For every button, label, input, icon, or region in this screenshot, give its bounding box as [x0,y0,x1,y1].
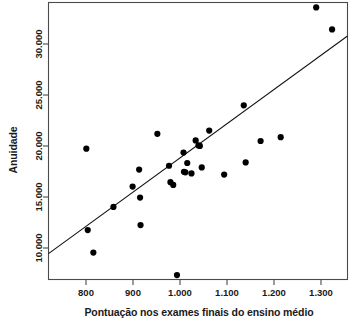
data-point [174,272,180,278]
data-point [221,171,227,177]
x-tick-label-1200: 1.200 [262,287,286,298]
data-point [184,160,190,166]
data-point [313,4,319,10]
data-point [329,26,335,32]
data-point [137,195,143,201]
data-point [170,182,176,188]
data-point [90,249,96,255]
data-point [241,102,247,108]
x-tick-label-900: 900 [125,287,141,298]
y-tick-label-25000: 25.000 [33,80,44,109]
data-point [166,163,172,169]
data-point [258,138,264,144]
y-axis-title: Anuidade [7,126,19,173]
chart-canvas: 30.000 25.000 20.000 15.000 10.000 Anuid… [0,0,354,323]
data-point [180,149,186,155]
data-point [206,127,212,133]
data-point [136,166,142,172]
x-axis-title: Pontuação nos exames finais do ensino mé… [84,306,313,318]
data-point [199,164,205,170]
data-point [197,143,203,149]
x-tick-label-1300: 1.300 [309,287,333,298]
y-tick-label-10000: 10.000 [33,233,44,262]
data-point [182,169,188,175]
x-tick-label-1100: 1.100 [215,287,239,298]
data-point [188,170,194,176]
x-tick-label-1000: 1.000 [168,287,192,298]
data-point [110,204,116,210]
y-tick-label-15000: 15.000 [33,182,44,211]
scatter-chart-figure: 30.000 25.000 20.000 15.000 10.000 Anuid… [0,0,354,323]
data-point [154,131,160,137]
x-tick-label-800: 800 [78,287,94,298]
y-tick-label-30000: 30.000 [33,29,44,58]
data-point [137,222,143,228]
data-point [278,134,284,140]
y-tick-label-20000: 20.000 [33,131,44,160]
data-point [85,227,91,233]
data-point [83,146,89,152]
data-point [129,184,135,190]
data-point [243,159,249,165]
